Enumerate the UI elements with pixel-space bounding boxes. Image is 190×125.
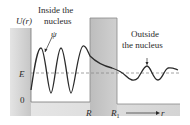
energy-label: E bbox=[18, 69, 25, 79]
inside-nucleus-well bbox=[31, 20, 90, 102]
r-label: R bbox=[85, 108, 92, 118]
inside-label-line2: nucleus bbox=[44, 16, 72, 26]
coulomb-barrier bbox=[90, 18, 117, 116]
inside-label-line1: Inside the bbox=[38, 5, 73, 15]
psi-label: ψ bbox=[51, 29, 57, 39]
outside-label-line2: the nucleus bbox=[122, 40, 163, 50]
potential-barrier-diagram: U(r) Inside the nucleus ψ Outside the nu… bbox=[0, 0, 190, 125]
outside-label-line1: Outside bbox=[131, 29, 159, 39]
zero-label: 0 bbox=[20, 95, 25, 105]
r-axis-label: r bbox=[161, 108, 165, 118]
y-axis-label: U(r) bbox=[16, 16, 32, 26]
